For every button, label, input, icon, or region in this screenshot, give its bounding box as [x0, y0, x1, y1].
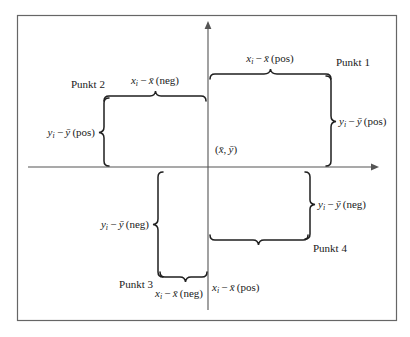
punkt-2-label: Punkt 2 — [71, 78, 105, 90]
origin-mean-label: (x̄, ȳ) — [215, 143, 237, 156]
page-background — [0, 0, 410, 337]
punkt-4-x-brace-label: xi − x̄ (pos) — [211, 281, 260, 295]
punkt-1-label: Punkt 1 — [336, 56, 370, 68]
punkt-3-label: Punkt 3 — [119, 278, 153, 290]
deviation-quadrant-diagram: (x̄, ȳ) Punkt 1 xi − x̄ (pos) yi − ȳ (… — [0, 0, 410, 337]
punkt-3-x-brace-label: xi − x̄ (neg) — [154, 287, 203, 301]
punkt-2-x-brace-label: xi − x̄ (neg) — [130, 74, 179, 88]
punkt-4-label: Punkt 4 — [313, 242, 347, 254]
punkt-3-y-brace-label: yi − ȳ (neg) — [100, 218, 149, 232]
punkt-1-y-brace-label: yi − ȳ (pos) — [338, 115, 387, 129]
punkt-2-y-brace-label: yi − ȳ (pos) — [47, 126, 96, 140]
punkt-1-x-brace-label: xi − x̄ (pos) — [245, 52, 294, 66]
punkt-4-y-brace-label: yi − ȳ (neg) — [317, 198, 366, 212]
